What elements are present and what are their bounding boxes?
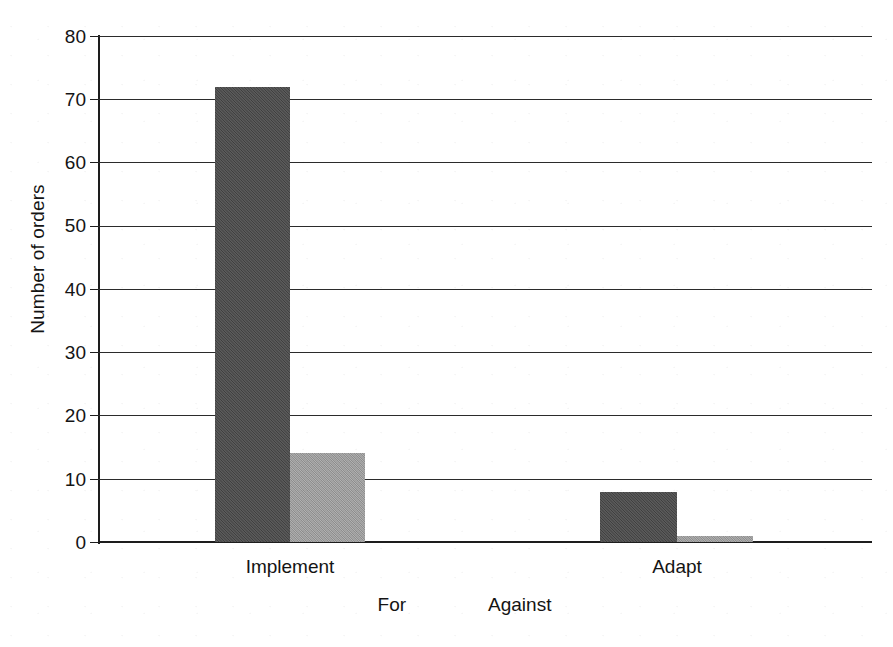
- y-tick-mark-50: [90, 226, 98, 227]
- y-tick-mark-70: [90, 99, 98, 100]
- y-tick-mark-60: [90, 162, 98, 163]
- y-axis-tick-labels: 80 70 60 50 40 30 20 10 0: [14, 0, 86, 647]
- y-tick-mark-10: [90, 479, 98, 480]
- y-tick-mark-80: [90, 36, 98, 37]
- category-label-adapt: Adapt: [557, 556, 797, 578]
- legend-item-for: For: [342, 592, 407, 616]
- y-tick-label-10: 10: [26, 470, 86, 489]
- bar-implement-against: [290, 453, 365, 542]
- legend-swatch-for-icon: [342, 592, 367, 616]
- y-tick-mark-20: [90, 415, 98, 416]
- legend-label-against: Against: [488, 595, 551, 614]
- y-tick-mark-30: [90, 352, 98, 353]
- y-tick-label-60: 60: [26, 153, 86, 172]
- y-tick-label-80: 80: [26, 27, 86, 46]
- y-tick-label-40: 40: [26, 280, 86, 299]
- legend-label-for: For: [378, 595, 407, 614]
- y-tick-label-30: 30: [26, 343, 86, 362]
- legend-item-against: Against: [452, 592, 551, 616]
- legend-swatch-against-icon: [452, 592, 477, 616]
- bar-adapt-for: [600, 492, 677, 542]
- bar-chart-figure: Number of orders 80 70 60 50 40 30 20 10…: [0, 0, 893, 647]
- y-tick-mark-0: [90, 542, 98, 543]
- y-tick-label-20: 20: [26, 406, 86, 425]
- bar-adapt-against: [677, 536, 753, 542]
- y-tick-label-0: 0: [26, 533, 86, 552]
- chart-legend: For Against: [0, 592, 893, 616]
- y-tick-label-50: 50: [26, 216, 86, 235]
- bar-implement-for: [215, 87, 290, 542]
- plot-area: [98, 36, 872, 542]
- category-label-implement: Implement: [170, 556, 410, 578]
- gridline-80: [98, 36, 872, 37]
- y-tick-mark-40: [90, 289, 98, 290]
- y-tick-label-70: 70: [26, 90, 86, 109]
